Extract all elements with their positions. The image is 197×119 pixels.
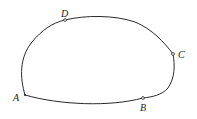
point-b-marker	[142, 97, 145, 100]
point-c-label: C	[178, 49, 185, 60]
point-a-vertex	[24, 94, 26, 96]
point-d-label: D	[60, 8, 69, 19]
point-a-label: A	[12, 92, 20, 103]
point-d-marker	[64, 19, 67, 22]
closed-curve	[22, 16, 175, 103]
point-c-marker	[172, 53, 175, 56]
point-b-label: B	[140, 102, 146, 113]
closed-curve-diagram: A B C D	[0, 0, 197, 119]
